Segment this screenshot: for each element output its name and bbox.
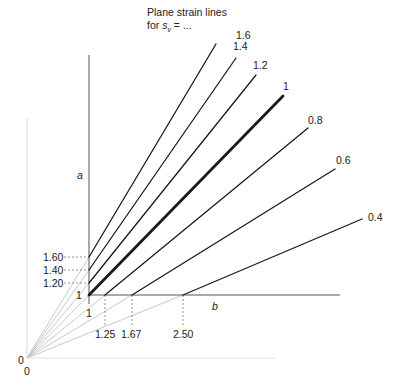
line-1.2	[89, 75, 256, 283]
inner-origin-a-label: 1	[76, 290, 82, 301]
plane-strain-lines	[89, 44, 362, 295]
line-0.6	[132, 169, 335, 295]
title-line-2: for sv = ...	[147, 19, 227, 36]
line-1.6	[89, 44, 216, 257]
line-label-0.4: 0.4	[368, 212, 383, 223]
plane-strain-diagram: Plane strain lines for sv = ... 1.6 1.4 …	[0, 0, 401, 390]
b-axis-label: b	[212, 301, 218, 312]
a-axis-label: a	[77, 170, 83, 181]
b-tick-1.25: 1.25	[95, 329, 115, 340]
a-tick-1.20: 1.20	[43, 278, 63, 289]
a-tick-1.40: 1.40	[43, 265, 63, 276]
line-label-1.4: 1.4	[233, 41, 248, 52]
a-tick-1.60: 1.60	[43, 252, 63, 263]
outer-origin-y-label: 0	[18, 355, 24, 366]
diagram-title: Plane strain lines for sv = ...	[147, 6, 227, 36]
line-0.4	[183, 219, 362, 295]
line-label-1.6: 1.6	[236, 30, 251, 41]
outer-origin-x-label: 0	[24, 366, 30, 377]
line-label-0.8: 0.8	[308, 115, 323, 126]
line-label-1.2: 1.2	[253, 60, 268, 71]
b-tick-2.50: 2.50	[173, 329, 193, 340]
diagram-graphics	[0, 0, 401, 390]
title-line-1: Plane strain lines	[147, 6, 227, 19]
line-label-0.6: 0.6	[336, 155, 351, 166]
line-1.4	[89, 58, 236, 270]
inner-origin-b-label: 1	[86, 308, 92, 319]
line-0.8	[105, 128, 308, 295]
line-label-1: 1	[283, 81, 289, 92]
b-tick-1.67: 1.67	[121, 329, 141, 340]
